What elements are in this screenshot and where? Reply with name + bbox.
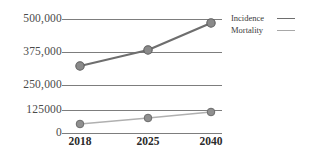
series-mortality <box>76 108 215 128</box>
legend-item-mortality: Mortality <box>231 25 309 36</box>
series-incidence <box>76 19 215 70</box>
legend-label-mortality: Mortality <box>231 26 275 35</box>
legend-swatch-mortality-icon <box>277 30 295 31</box>
series-incidence-line <box>80 23 211 66</box>
data-point-incidence-2025 <box>144 46 152 54</box>
chart-legend: Incidence Mortality <box>231 13 309 37</box>
legend-label-incidence: Incidence <box>231 14 275 23</box>
line-chart: 500,000 375,000 250,000 125000 0 2018 20… <box>0 0 311 153</box>
data-point-mortality-2040 <box>207 108 215 116</box>
data-point-mortality-2025 <box>144 114 152 122</box>
data-point-incidence-2040 <box>207 19 215 27</box>
x-tick-label-2018: 2018 <box>57 136 103 148</box>
legend-swatch-incidence-icon <box>277 18 295 19</box>
x-tick-label-2025: 2025 <box>125 136 171 148</box>
data-point-mortality-2018 <box>76 120 84 128</box>
data-point-incidence-2018 <box>76 62 84 70</box>
legend-item-incidence: Incidence <box>231 13 309 24</box>
x-tick-label-2040: 2040 <box>188 136 234 148</box>
